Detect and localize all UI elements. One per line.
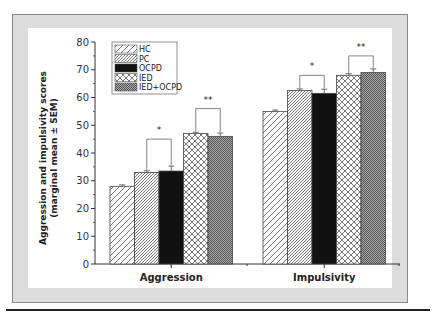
- y-tick-label: 80: [76, 37, 89, 48]
- bar-ocpd-aggression: [159, 171, 184, 264]
- y-tick-label: 50: [76, 120, 89, 131]
- legend-swatch: [115, 45, 137, 53]
- legend-label: IED+OCPD: [139, 83, 182, 92]
- bars: [110, 69, 386, 264]
- legend: HCPCOCPDIEDIED+OCPD: [112, 42, 182, 94]
- x-tick-label: Aggression: [140, 272, 203, 283]
- x-tick-label: Impulsivity: [293, 272, 356, 283]
- bar-ied-impulsivity: [337, 75, 362, 264]
- legend-label: PC: [139, 55, 150, 64]
- significance-bracket: [300, 75, 325, 88]
- bar-chart: 01020304050607080 AggressionImpulsivity …: [0, 0, 436, 317]
- y-axis: 01020304050607080: [76, 37, 95, 270]
- bar-ocpd-impulsivity: [312, 93, 337, 264]
- y-tick-label: 70: [76, 64, 89, 75]
- bar-ied-ocpd-impulsivity: [361, 73, 386, 264]
- significance-bracket: [147, 139, 172, 170]
- bar-ied-aggression: [184, 134, 209, 264]
- x-axis: AggressionImpulsivity: [95, 264, 400, 283]
- legend-swatch: [115, 74, 137, 82]
- legend-label: OCPD: [139, 64, 162, 73]
- y-tick-label: 0: [83, 259, 89, 270]
- y-tick-label: 10: [76, 231, 89, 242]
- y-tick-label: 60: [76, 92, 89, 103]
- bar-pc-impulsivity: [288, 91, 313, 264]
- legend-swatch: [115, 83, 137, 91]
- legend-label: HC: [139, 45, 151, 54]
- legend-swatch: [115, 55, 137, 63]
- y-tick-label: 20: [76, 203, 89, 214]
- significance-marker: **: [204, 95, 214, 105]
- significance-bracket: [349, 56, 374, 73]
- bar-pc-aggression: [135, 172, 160, 264]
- legend-swatch: [115, 64, 137, 72]
- bar-ied-ocpd-aggression: [208, 136, 233, 264]
- bar-hc-aggression: [110, 186, 135, 264]
- significance-marker: **: [357, 42, 367, 52]
- bar-hc-impulsivity: [263, 111, 288, 264]
- significance-bracket: [196, 109, 221, 132]
- significance-marker: *: [157, 125, 162, 135]
- significance-marker: *: [310, 61, 315, 71]
- y-tick-label: 40: [76, 148, 89, 159]
- y-axis-sublabel: (marginal mean ± SEM): [49, 98, 59, 218]
- legend-label: IED: [139, 74, 153, 83]
- y-axis-label: Aggression and impulsivity scores: [38, 71, 48, 245]
- y-tick-label: 30: [76, 175, 89, 186]
